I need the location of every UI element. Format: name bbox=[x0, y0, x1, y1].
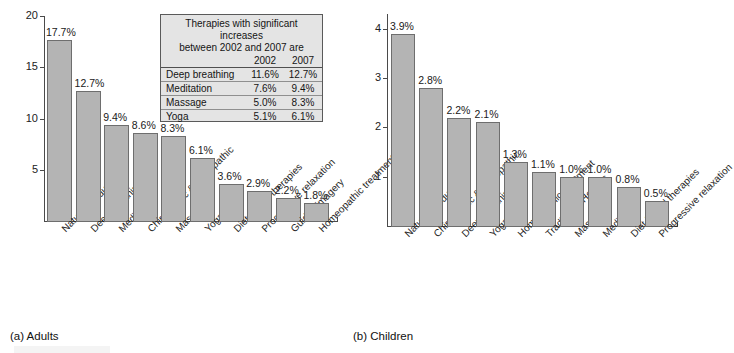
bar-value-label: 1.0% bbox=[559, 164, 583, 175]
caption-adults: (a) Adults bbox=[10, 330, 59, 342]
page-footer-artifact bbox=[14, 346, 110, 353]
inset-cell-therapy: Massage bbox=[161, 96, 246, 110]
y-axis-tick bbox=[40, 170, 45, 171]
bar-value-label: 0.8% bbox=[616, 174, 640, 185]
inset-cell-v2002: 5.0% bbox=[246, 96, 284, 110]
inset-cell-therapy: Yoga bbox=[161, 110, 246, 124]
inset-summary-table: Therapies with significant increases bet… bbox=[160, 14, 323, 122]
y-axis-tick-label: 5 bbox=[22, 164, 38, 175]
y-axis-tick-label: 1 bbox=[369, 171, 381, 182]
bar bbox=[447, 118, 471, 227]
bar-value-label: 8.6% bbox=[132, 120, 156, 131]
bar bbox=[133, 133, 158, 222]
inset-cell-v2007: 6.1% bbox=[284, 110, 322, 124]
y-axis-tick-label: 3 bbox=[369, 72, 381, 83]
inset-table-title: Therapies with significant increases bet… bbox=[161, 15, 322, 54]
y-axis-tick-label: 15 bbox=[22, 61, 38, 72]
y-axis-tick bbox=[383, 78, 388, 79]
chart-panel-children: 12343.9%Natural products2.8%Chiropractic… bbox=[339, 0, 678, 353]
bar bbox=[560, 177, 584, 227]
inset-table-row: Yoga5.1%6.1% bbox=[161, 110, 322, 124]
inset-title-line-2: between 2002 and 2007 are bbox=[164, 42, 319, 54]
y-axis-tick-label: 2 bbox=[369, 121, 381, 132]
inset-cell-therapy: Deep breathing bbox=[161, 68, 246, 82]
bar-value-label: 1.3% bbox=[503, 149, 527, 160]
bar-value-label: 6.1% bbox=[189, 145, 213, 156]
bar-value-label: 3.9% bbox=[390, 21, 414, 32]
bar bbox=[476, 122, 500, 227]
bar bbox=[161, 136, 186, 222]
y-axis-tick bbox=[40, 119, 45, 120]
bar-value-label: 2.8% bbox=[418, 75, 442, 86]
bar-value-label: 12.7% bbox=[75, 78, 105, 89]
inset-header-2007: 2007 bbox=[284, 54, 322, 68]
y-axis-tick bbox=[383, 177, 388, 178]
bar-value-label: 1.8% bbox=[303, 190, 327, 201]
inset-table-grid: 2002 2007 Deep breathing11.6%12.7%Medita… bbox=[161, 54, 322, 123]
y-axis-line bbox=[387, 14, 388, 227]
inset-cell-v2002: 11.6% bbox=[246, 68, 284, 82]
y-axis-tick bbox=[40, 67, 45, 68]
inset-cell-therapy: Meditation bbox=[161, 82, 246, 96]
bar bbox=[588, 177, 612, 227]
inset-table-header-row: 2002 2007 bbox=[161, 54, 322, 68]
bar-value-label: 17.7% bbox=[46, 27, 76, 38]
caption-children: (b) Children bbox=[353, 330, 413, 342]
inset-cell-v2002: 5.1% bbox=[246, 110, 284, 124]
inset-cell-v2007: 12.7% bbox=[284, 68, 322, 82]
bar-value-label: 3.6% bbox=[218, 171, 242, 182]
bar bbox=[532, 172, 556, 227]
bar-value-label: 8.3% bbox=[160, 123, 184, 134]
bar-value-label: 0.5% bbox=[644, 188, 668, 199]
inset-cell-v2007: 9.4% bbox=[284, 82, 322, 96]
y-axis-tick-label: 20 bbox=[22, 10, 38, 21]
bar-value-label: 1.0% bbox=[587, 164, 611, 175]
y-axis-tick bbox=[383, 29, 388, 30]
y-axis-tick bbox=[383, 127, 388, 128]
bar bbox=[419, 88, 443, 227]
bar bbox=[47, 40, 72, 222]
inset-header-therapy bbox=[161, 54, 246, 68]
bar bbox=[391, 34, 415, 227]
inset-header-2002: 2002 bbox=[246, 54, 284, 68]
bar bbox=[504, 162, 528, 227]
bar bbox=[104, 125, 129, 222]
bar-value-label: 2.1% bbox=[475, 109, 499, 120]
bar-value-label: 9.4% bbox=[103, 112, 127, 123]
y-axis-tick-label: 10 bbox=[22, 113, 38, 124]
inset-title-line-1: Therapies with significant increases bbox=[164, 18, 319, 42]
inset-cell-v2002: 7.6% bbox=[246, 82, 284, 96]
inset-table-row: Deep breathing11.6%12.7% bbox=[161, 68, 322, 82]
inset-table-row: Massage5.0%8.3% bbox=[161, 96, 322, 110]
inset-table-row: Meditation7.6%9.4% bbox=[161, 82, 322, 96]
y-axis-tick-label: 4 bbox=[369, 23, 381, 34]
bar bbox=[76, 91, 101, 222]
inset-cell-v2007: 8.3% bbox=[284, 96, 322, 110]
chart-panel-adults: 510152017.7%Natural products12.7%Deep br… bbox=[0, 0, 339, 353]
bar-value-label: 1.1% bbox=[531, 159, 555, 170]
y-axis-tick bbox=[40, 16, 45, 17]
bar-value-label: 2.2% bbox=[446, 105, 470, 116]
bar-value-label: 2.9% bbox=[246, 178, 270, 189]
bar bbox=[190, 158, 215, 222]
bar-value-label: 2.2% bbox=[275, 185, 299, 196]
